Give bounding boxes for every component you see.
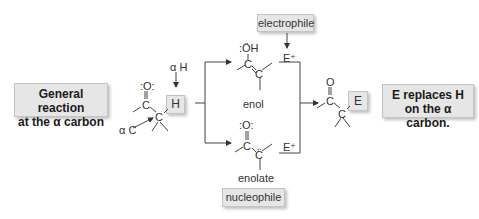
enol-carbon-2: C [255, 68, 263, 80]
enolate-structure [235, 131, 272, 170]
oxygen-atom: :O: [140, 80, 155, 92]
product-carbonyl-carbon: C [326, 95, 334, 107]
enolate-carbon-1: C [243, 140, 251, 152]
product-oxygen: O [326, 76, 335, 88]
enolate-carbanion: C̈ [255, 149, 263, 161]
carbonyl-carbon: C [142, 99, 150, 111]
product-structure [317, 87, 350, 127]
reaction-scheme: :O: C C :ÖH C C :O: C C̈ [0, 0, 479, 219]
product-alpha-carbon: C [338, 108, 346, 120]
enol-carbon-1: C [244, 58, 252, 70]
enol-oh: :ÖH [239, 42, 259, 54]
enolate-oxygen: :O: [239, 119, 254, 131]
alpha-carbon: C [155, 111, 163, 123]
